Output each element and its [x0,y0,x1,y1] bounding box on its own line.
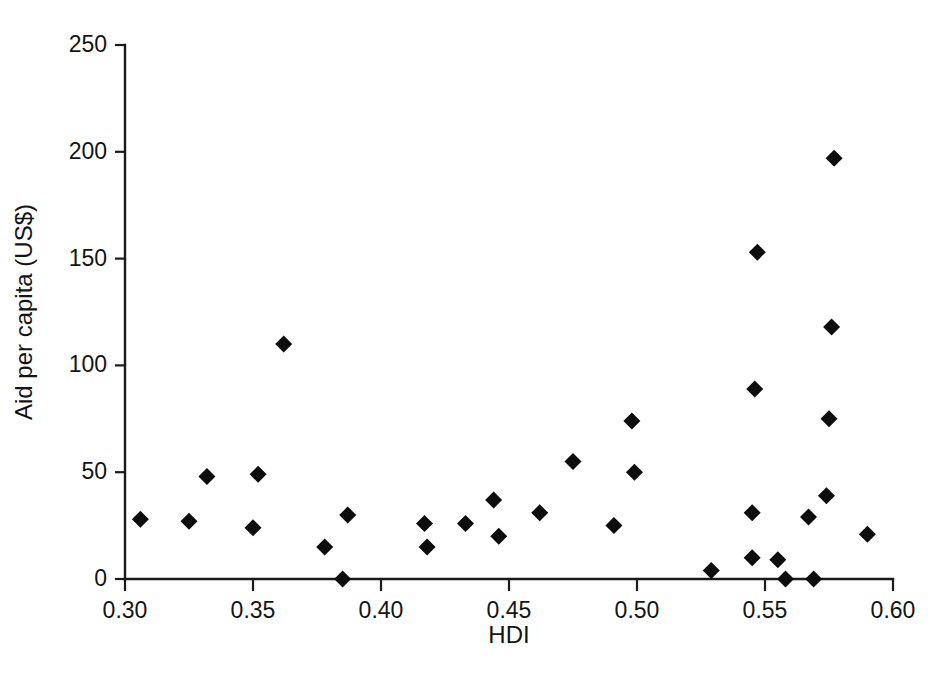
data-point-diamond [703,562,720,579]
data-point-diamond [485,491,502,508]
data-point-diamond [823,318,840,335]
data-point-diamond [769,551,786,568]
data-point-diamond [818,487,835,504]
data-point-diamond [777,571,794,588]
y-axis-tick-label: 50 [81,458,107,484]
x-axis-tick-label: 0.45 [487,597,532,623]
data-point-diamond [626,464,643,481]
data-point-diamond [821,410,838,427]
y-axis-tick-label: 100 [69,351,107,377]
data-point-diamond [339,506,356,523]
scatter-plot-figure: 050100150200250 0.300.350.400.450.500.55… [0,0,946,685]
data-point-diamond [749,244,766,261]
y-axis-tick-label: 200 [69,138,107,164]
y-axis-title: Aid per capita (US$) [10,204,37,420]
x-axis-tick-label: 0.55 [743,597,788,623]
data-point-diamond [826,150,843,167]
x-axis-tick-label: 0.40 [359,597,404,623]
x-axis-tick-label: 0.35 [231,597,276,623]
data-points-layer [132,150,876,588]
y-axis-tick-label: 150 [69,245,107,271]
x-axis-tick-label: 0.30 [103,597,148,623]
data-point-diamond [744,549,761,566]
data-point-diamond [457,515,474,532]
data-point-diamond [198,468,215,485]
data-point-diamond [181,513,198,530]
data-point-diamond [275,336,292,353]
y-axis-tick-label: 0 [94,565,107,591]
data-point-diamond [416,515,433,532]
data-point-diamond [490,528,507,545]
data-point-diamond [746,380,763,397]
data-point-diamond [800,509,817,526]
data-point-diamond [531,504,548,521]
x-axis-title: HDI [488,621,529,648]
data-point-diamond [565,453,582,470]
data-point-diamond [623,412,640,429]
data-point-diamond [334,571,351,588]
y-axis-tick-label: 250 [69,31,107,57]
data-point-diamond [744,504,761,521]
plot-canvas: 050100150200250 0.300.350.400.450.500.55… [0,0,946,685]
y-axis: 050100150200250 [69,31,125,591]
data-point-diamond [245,519,262,536]
x-axis-tick-label: 0.50 [615,597,660,623]
data-point-diamond [132,511,149,528]
data-point-diamond [250,466,267,483]
data-point-diamond [859,526,876,543]
data-point-diamond [805,571,822,588]
data-point-diamond [419,538,436,555]
data-point-diamond [316,538,333,555]
x-axis-tick-label: 0.60 [871,597,916,623]
x-axis: 0.300.350.400.450.500.550.60 [103,579,916,623]
data-point-diamond [605,517,622,534]
